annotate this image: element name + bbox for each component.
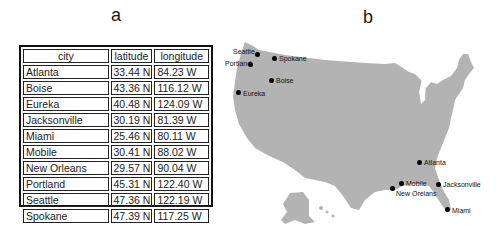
city-label: Mobile <box>406 180 427 187</box>
cell-city: Miami <box>23 129 109 143</box>
city-dot <box>255 52 260 57</box>
cell-longitude: 124.09 W <box>154 97 209 111</box>
header-latitude: latitude <box>111 49 153 63</box>
cell-longitude: 116.12 W <box>154 81 209 95</box>
city-label: Jacksonville <box>443 181 481 188</box>
cell-latitude: 47.36 N <box>111 193 153 207</box>
us-map-outline <box>225 20 496 225</box>
table-row: Spokane47.39 N117.25 W <box>23 209 209 223</box>
table-row: Mobile30.41 N88.02 W <box>23 145 209 159</box>
cell-longitude: 90.04 W <box>154 161 209 175</box>
cell-longitude: 122.40 W <box>154 177 209 191</box>
hawaii-shape <box>319 206 323 210</box>
table-row: Jacksonville30.19 N81.39 W <box>23 113 209 127</box>
header-longitude: longitude <box>154 49 209 63</box>
us-map: SeattlePortlandSpokaneBoiseEurekaAtlanta… <box>225 20 496 225</box>
city-label: Boise <box>276 77 294 84</box>
city-label: Spokane <box>279 55 307 62</box>
cell-longitude: 81.39 W <box>154 113 209 127</box>
city-dot <box>269 78 274 83</box>
table-row: New Orleans29.57 N90.04 W <box>23 161 209 175</box>
table-row: Boise43.36 N116.12 W <box>23 81 209 95</box>
cell-longitude: 84.23 W <box>154 65 209 79</box>
alaska-shape <box>281 192 315 224</box>
cell-latitude: 29.57 N <box>111 161 153 175</box>
cell-latitude: 40.48 N <box>111 97 153 111</box>
hawaii-shape <box>326 211 329 214</box>
cell-latitude: 47.39 N <box>111 209 153 223</box>
city-label: Miami <box>452 207 471 214</box>
table-row: Seattle47.36 N122.19 W <box>23 193 209 207</box>
cell-city: New Orleans <box>23 161 109 175</box>
cell-city: Jacksonville <box>23 113 109 127</box>
city-dot <box>417 160 422 165</box>
contiguous-us-shape <box>233 42 474 212</box>
cell-city: Eureka <box>23 97 109 111</box>
cell-latitude: 30.41 N <box>111 145 153 159</box>
cell-longitude: 88.02 W <box>154 145 209 159</box>
cell-latitude: 25.46 N <box>111 129 153 143</box>
cell-city: Seattle <box>23 193 109 207</box>
cell-city: Mobile <box>23 145 109 159</box>
cell-city: Spokane <box>23 209 109 223</box>
cell-longitude: 117.25 W <box>154 209 209 223</box>
cell-latitude: 30.19 N <box>111 113 153 127</box>
panel-label-a: a <box>111 6 121 24</box>
city-label: New Orelans <box>396 190 436 197</box>
table-row: Eureka40.48 N124.09 W <box>23 97 209 111</box>
city-dot <box>272 56 277 61</box>
cell-city: Portland <box>23 177 109 191</box>
cell-city: Boise <box>23 81 109 95</box>
table-header-row: city latitude longitude <box>23 49 209 63</box>
table-row: Atlanta33.44 N84.23 W <box>23 65 209 79</box>
cell-latitude: 43.36 N <box>111 81 153 95</box>
city-label: Atlanta <box>424 159 446 166</box>
cell-latitude: 33.44 N <box>111 65 153 79</box>
city-dot <box>436 182 441 187</box>
cell-latitude: 45.31 N <box>111 177 153 191</box>
hawaii-shape <box>332 215 335 218</box>
city-label: Portland <box>225 60 251 67</box>
coordinates-table: city latitude longitude Atlanta33.44 N84… <box>21 47 211 225</box>
city-coordinates-table: city latitude longitude Atlanta33.44 N84… <box>19 45 213 207</box>
cell-city: Atlanta <box>23 65 109 79</box>
city-dot <box>399 181 404 186</box>
cell-longitude: 80.11 W <box>154 129 209 143</box>
city-label: Seattle <box>233 48 255 55</box>
header-city: city <box>23 49 109 63</box>
city-dot <box>445 207 450 212</box>
city-dot <box>236 90 241 95</box>
city-label: Eureka <box>243 90 265 97</box>
table-row: Portland45.31 N122.40 W <box>23 177 209 191</box>
cell-longitude: 122.19 W <box>154 193 209 207</box>
table-row: Miami25.46 N80.11 W <box>23 129 209 143</box>
city-dot <box>390 186 395 191</box>
